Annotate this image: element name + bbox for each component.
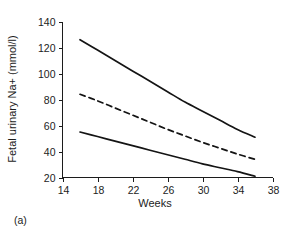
figure-panel: 20406080100120140 14182226303438 Weeks F…: [0, 0, 296, 239]
x-tick-label: 14: [58, 184, 70, 196]
x-tick-label: 38: [268, 184, 280, 196]
x-axis-title: Weeks: [138, 197, 172, 209]
figure-caption: (a): [14, 214, 27, 226]
y-tick-label: 100: [38, 68, 56, 80]
y-tick-label: 120: [38, 42, 56, 54]
x-tick-label: 34: [233, 184, 245, 196]
y-tick-label: 20: [44, 172, 56, 184]
y-tick-label: 60: [44, 120, 56, 132]
x-tick-label: 22: [128, 184, 140, 196]
x-tick-label: 30: [198, 184, 210, 196]
y-tick-label: 140: [38, 16, 56, 28]
y-tick-label: 80: [44, 94, 56, 106]
x-tick-label: 26: [163, 184, 175, 196]
line-chart: 20406080100120140 14182226303438 Weeks F…: [0, 0, 296, 239]
y-tick-label: 40: [44, 146, 56, 158]
x-tick-label: 18: [93, 184, 105, 196]
y-axis-title: Fetal urinary Na+ (mmol/l): [6, 35, 18, 162]
